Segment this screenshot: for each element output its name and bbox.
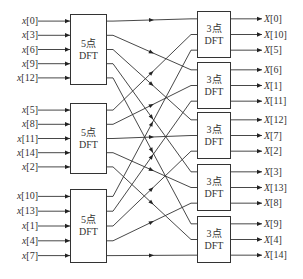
block-type-label: DFT <box>205 35 224 47</box>
output-label: X[6] <box>264 65 282 75</box>
input-label: x[6] <box>0 45 38 55</box>
input-label: x[5] <box>0 105 38 115</box>
output-label: X[12] <box>264 115 287 125</box>
block-size-label: 5点 <box>81 214 96 226</box>
input-label: x[2] <box>0 162 38 172</box>
output-label: X[10] <box>264 30 287 40</box>
input-label: x[8] <box>0 119 38 129</box>
dft3-block-1: 3点DFT <box>197 11 231 58</box>
output-label: X[3] <box>264 167 282 177</box>
fft-signal-flow-diagram: x[0]x[3]x[6]x[9]x[12]5点DFTx[5]x[8]x[11]x… <box>0 0 303 279</box>
dft3-block-3: 3点DFT <box>197 112 231 159</box>
block-type-label: DFT <box>205 136 224 148</box>
input-label: x[10] <box>0 191 38 201</box>
block-size-label: 3点 <box>207 23 222 35</box>
output-label: X[7] <box>264 131 282 141</box>
dft3-block-4: 3点DFT <box>197 164 231 211</box>
input-label: x[0] <box>0 16 38 26</box>
block-size-label: 3点 <box>207 176 222 188</box>
dft3-block-2: 3点DFT <box>197 62 231 109</box>
dft5-block-3: 5点DFT <box>70 189 107 263</box>
output-label: X[5] <box>264 45 282 55</box>
block-type-label: DFT <box>79 226 98 238</box>
block-type-label: DFT <box>205 188 224 200</box>
block-size-label: 3点 <box>207 74 222 86</box>
output-label: X[13] <box>264 183 287 193</box>
connection-wires <box>0 0 303 279</box>
input-label: x[14] <box>0 148 38 158</box>
dft3-block-5: 3点DFT <box>197 216 231 263</box>
dft5-block-1: 5点DFT <box>70 14 107 85</box>
block-type-label: DFT <box>79 139 98 151</box>
input-label: x[12] <box>0 73 38 83</box>
input-label: x[9] <box>0 59 38 69</box>
output-label: X[11] <box>264 96 286 106</box>
block-size-label: 3点 <box>207 228 222 240</box>
output-label: X[8] <box>264 198 282 208</box>
input-label: x[11] <box>0 134 38 144</box>
output-label: X[1] <box>264 81 282 91</box>
input-label: x[3] <box>0 30 38 40</box>
output-label: X[9] <box>264 219 282 229</box>
block-size-label: 5点 <box>81 127 96 139</box>
block-size-label: 3点 <box>207 124 222 136</box>
input-label: x[1] <box>0 221 38 231</box>
input-label: x[7] <box>0 251 38 261</box>
output-label: X[2] <box>264 146 282 156</box>
output-label: X[0] <box>264 14 282 24</box>
input-label: x[13] <box>0 206 38 216</box>
block-size-label: 5点 <box>81 38 96 50</box>
output-label: X[14] <box>264 250 287 260</box>
input-label: x[4] <box>0 236 38 246</box>
block-type-label: DFT <box>205 240 224 252</box>
output-label: X[4] <box>264 235 282 245</box>
block-type-label: DFT <box>205 86 224 98</box>
dft5-block-2: 5点DFT <box>70 103 107 174</box>
block-type-label: DFT <box>79 50 98 62</box>
